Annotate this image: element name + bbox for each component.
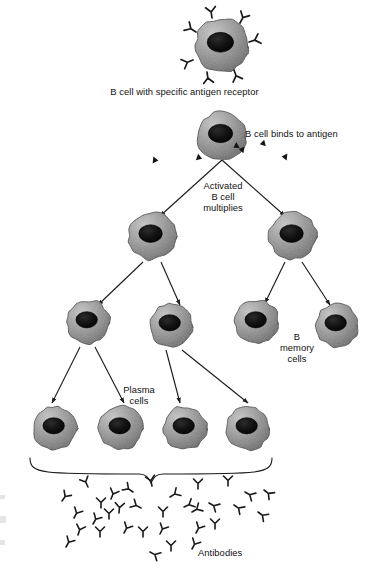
antibody-icon-32 bbox=[167, 541, 176, 551]
arrow-plasma-1 bbox=[52, 347, 80, 403]
antibody-icon-9 bbox=[243, 488, 256, 501]
label-activated-line3: multiplies bbox=[181, 202, 265, 213]
arrow-gen3-2 bbox=[161, 262, 180, 305]
cells-layer bbox=[34, 19, 358, 451]
antibody-icon-23 bbox=[74, 524, 86, 536]
label-b-cell-with-receptor: B cell with specific antigen receptor bbox=[0, 86, 369, 97]
label-b-cell-binds-antigen: B cell binds to antigen bbox=[245, 128, 338, 139]
antibody-icon-29 bbox=[211, 519, 220, 529]
antibody-icon-25 bbox=[120, 522, 133, 535]
antigen-icon-2 bbox=[259, 140, 266, 148]
label-activated-line1: Activated bbox=[181, 180, 265, 191]
arrow-plasma-4 bbox=[182, 350, 248, 403]
antibody-icon-11 bbox=[115, 503, 125, 514]
antibody-icon-18 bbox=[70, 507, 83, 520]
arrow-gen3-4 bbox=[302, 262, 330, 305]
antibody-icon-30 bbox=[62, 536, 75, 549]
antibody-icon-26 bbox=[139, 527, 148, 537]
plasma-cell-3 bbox=[163, 406, 208, 448]
label-memory-line2: memory bbox=[268, 342, 326, 353]
plasma-cell-2 bbox=[98, 405, 144, 449]
antigen-icon-3 bbox=[281, 153, 287, 160]
arrow-gen3-1 bbox=[98, 262, 143, 305]
label-plasma-line1: Plasma bbox=[108, 384, 170, 395]
receptor-icon-6 bbox=[202, 71, 213, 83]
antibody-icon-20 bbox=[105, 509, 114, 519]
b-cell-binding-antigen bbox=[197, 111, 246, 160]
scan-artifact-2 bbox=[0, 516, 6, 523]
antibody-icon-17 bbox=[255, 508, 268, 521]
antibody-icon-13 bbox=[97, 498, 106, 508]
antibody-icon-4 bbox=[122, 483, 135, 496]
antibody-icon-28 bbox=[192, 522, 205, 535]
antibody-icon-24 bbox=[96, 527, 105, 537]
receptor-icon-4 bbox=[184, 22, 199, 36]
antigen-icon-4 bbox=[196, 154, 203, 162]
activated-b-cell-right bbox=[268, 211, 318, 260]
daughter-cell-1 bbox=[67, 301, 111, 345]
label-memory-line1: B bbox=[268, 331, 326, 342]
antibody-icon-16 bbox=[231, 501, 244, 514]
antibody-icon-1 bbox=[58, 490, 71, 503]
antibody-icon-8 bbox=[224, 476, 233, 486]
b-cell-with-receptors bbox=[195, 19, 249, 72]
activated-b-cell-left bbox=[128, 212, 177, 261]
antibody-icon-14 bbox=[182, 499, 195, 511]
antibody-icon-2 bbox=[80, 476, 92, 489]
antibody-icon-19 bbox=[89, 513, 102, 526]
antigen-icon-5 bbox=[153, 157, 159, 164]
antibody-icon-12 bbox=[130, 499, 143, 512]
arrow-gen3-3 bbox=[265, 262, 285, 303]
antibody-icon-27 bbox=[156, 523, 168, 536]
antibody-icon-15 bbox=[207, 499, 220, 512]
scan-artifact-3 bbox=[0, 540, 5, 545]
antibody-icon-10 bbox=[261, 486, 274, 499]
plasma-cell-1 bbox=[34, 406, 78, 450]
scan-artifact-1 bbox=[0, 495, 5, 499]
antibody-icon-3 bbox=[107, 488, 119, 501]
antibody-icon-21 bbox=[159, 507, 168, 517]
label-plasma-line2: cells bbox=[108, 395, 170, 406]
label-activated-line2: B cell bbox=[181, 191, 265, 202]
label-memory-line3: cells bbox=[268, 353, 326, 364]
receptor-icon-5 bbox=[181, 55, 195, 68]
antibody-icon-31 bbox=[148, 548, 161, 561]
plasma-cell-4 bbox=[226, 406, 270, 450]
daughter-cell-2 bbox=[150, 303, 193, 347]
receptor-icon-3 bbox=[247, 34, 261, 47]
antibody-icon-7 bbox=[194, 479, 203, 489]
antibody-icon-6 bbox=[168, 488, 181, 501]
receptor-icon-1 bbox=[206, 6, 217, 18]
diagram-canvas: B cell with specific antigen receptor B … bbox=[0, 0, 369, 573]
label-antibodies: Antibodies bbox=[198, 547, 242, 558]
